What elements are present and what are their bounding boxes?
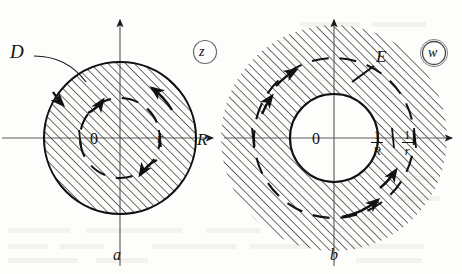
- radius-label-inv-r-w: 1 r: [402, 128, 413, 158]
- fraction-denominator: R: [371, 144, 383, 157]
- conformal-mapping-figure: D z 0 r R a E w 0 1 R 1 r b: [0, 0, 462, 274]
- plane-label-z: z: [199, 45, 204, 59]
- fraction-numerator: 1: [402, 128, 413, 141]
- origin-label-w: 0: [312, 131, 320, 147]
- region-D-hatching: [40, 58, 204, 222]
- plane-label-circle-z: [194, 41, 217, 64]
- origin-label-z: 0: [90, 131, 98, 147]
- radius-label-inv-R-w: 1 R: [371, 128, 383, 158]
- region-label-E: E: [376, 48, 386, 65]
- subfigure-label-a: a: [113, 247, 121, 263]
- figure-canvas: [0, 0, 462, 274]
- axis-label-R-z: R: [197, 131, 207, 148]
- panel-w-plane: [218, 20, 452, 266]
- radius-label-r-z: r: [157, 131, 163, 146]
- region-label-D: D: [10, 42, 24, 61]
- plane-label-w: w: [428, 46, 437, 60]
- fraction-numerator: 1: [371, 128, 383, 141]
- subfigure-label-b: b: [330, 247, 338, 263]
- fraction-denominator: r: [402, 144, 413, 157]
